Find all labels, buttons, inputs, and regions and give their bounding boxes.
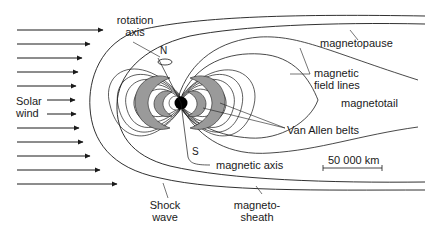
magnetopause-label: magnetopause [320, 37, 393, 49]
magnetic-field-lines-label-line1: magnetic [314, 67, 360, 79]
scale-bar-label: 50 000 km [328, 154, 379, 166]
magnetic-field-lines-label: magnetic field lines [314, 67, 360, 91]
van-allen-belts-label: Van Allen belts [287, 124, 359, 136]
shock-wave-label-line1: Shock [145, 199, 185, 211]
solar-wind-label: Solar wind [16, 95, 42, 119]
shock-wave-label-line2: wave [145, 211, 185, 223]
magnetotail-label: magnetotail [341, 97, 398, 109]
magnetosphere-diagram [0, 0, 433, 230]
magnetosheath-label-line2: sheath [232, 211, 282, 223]
solar-wind-label-line2: wind [16, 107, 42, 119]
magnetosheath-label: magneto- sheath [232, 199, 282, 223]
rotation-axis-label: rotation axis [110, 14, 160, 38]
south-pole-label: S [192, 146, 199, 158]
magnetic-field-lines-label-line2: field lines [314, 79, 360, 91]
shock-wave-label: Shock wave [145, 199, 185, 223]
rotation-axis-label-line2: axis [110, 26, 160, 38]
north-pole-label: N [160, 45, 167, 57]
magnetosheath-label-line1: magneto- [232, 199, 282, 211]
magnetic-axis-label: magnetic axis [216, 159, 283, 171]
rotation-axis-label-line1: rotation [110, 14, 160, 26]
solar-wind-label-line1: Solar [16, 95, 42, 107]
